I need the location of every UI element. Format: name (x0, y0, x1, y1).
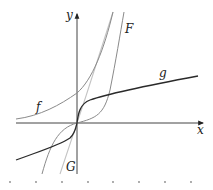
y-axis-label: y (65, 8, 73, 22)
curve-label-G: G (66, 160, 76, 174)
curve-label-F: F (124, 22, 134, 36)
curve-F (42, 12, 124, 174)
curve-g (16, 76, 198, 160)
function-graph: y x F g f G (0, 0, 213, 190)
x-axis-label: x (197, 123, 204, 137)
curve-f (16, 12, 113, 119)
curve-G (60, 12, 113, 174)
curve-label-g: g (159, 66, 167, 80)
footer-dots (9, 181, 192, 183)
